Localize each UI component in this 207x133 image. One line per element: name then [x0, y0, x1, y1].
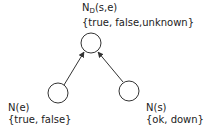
node-nd-circle — [81, 33, 101, 53]
node-ns-states: {ok, down} — [146, 114, 204, 126]
node-ne-states: {true, false} — [8, 114, 71, 126]
node-ne-label: N(e) {true, false} — [8, 102, 71, 126]
node-ns-circle — [119, 81, 139, 101]
node-nd-name: ND(s,e) — [82, 2, 194, 17]
node-ns-label: N(s) {ok, down} — [146, 102, 204, 126]
node-nd-states: {true, false,unknown} — [82, 17, 194, 29]
edge-ne-to-nd-arrow — [64, 52, 84, 85]
node-ns-name: N(s) — [146, 102, 204, 114]
node-ne-name: N(e) — [8, 102, 71, 114]
edge-ns-to-nd-arrow — [98, 52, 123, 82]
node-nd-label: ND(s,e) {true, false,unknown} — [82, 2, 194, 29]
node-ne-circle — [48, 83, 68, 103]
